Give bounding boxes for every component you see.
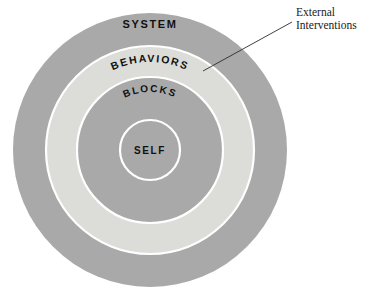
external-interventions-label-line2: Interventions: [296, 19, 357, 31]
diagram-canvas: SYSTEM BEHAVIORS BLOCKS SELF External In…: [0, 0, 376, 301]
external-interventions-label-line1: External: [296, 6, 335, 18]
ring-label-self: SELF: [134, 145, 166, 156]
concentric-rings-diagram: SYSTEM BEHAVIORS BLOCKS SELF External In…: [0, 0, 376, 301]
ring-label-system: SYSTEM: [123, 18, 178, 30]
